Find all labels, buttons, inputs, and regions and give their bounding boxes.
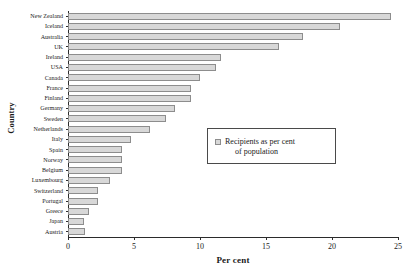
y-axis-tick [66, 159, 69, 160]
y-axis-tick-label: France [46, 85, 63, 91]
y-axis-tick-label: Ireland [46, 54, 63, 60]
legend-label-line1: Recipients as per cent [225, 137, 330, 147]
y-axis-tick-labels: New ZealandIcelandAustraliaUKIrelandUSAC… [0, 11, 66, 237]
x-axis-tick-label: 10 [185, 242, 215, 251]
y-axis-tick [66, 118, 69, 119]
y-axis-tick [66, 57, 69, 58]
bar [68, 64, 216, 71]
x-axis-tick-label: 0 [53, 242, 83, 251]
bar [68, 23, 340, 30]
x-axis-tick-label: 20 [317, 242, 347, 251]
y-axis-tick [66, 201, 69, 202]
bar [68, 115, 166, 122]
y-axis-tick [66, 88, 69, 89]
bar [68, 95, 191, 102]
legend-entry: Recipients as per cent of population [215, 137, 330, 157]
bar [68, 54, 221, 61]
y-axis-tick-label: Germany [40, 105, 63, 111]
bar-chart: Country New ZealandIcelandAustraliaUKIre… [0, 0, 415, 276]
y-axis-tick-label: UK [54, 44, 63, 50]
bar [68, 156, 122, 163]
y-axis-tick-label: Sweden [44, 116, 63, 122]
y-axis-tick [66, 211, 69, 212]
y-axis-tick-label: USA [51, 64, 63, 70]
legend-swatch-icon [215, 139, 221, 145]
y-axis-tick [66, 108, 69, 109]
y-axis-tick-label: Spain [49, 147, 63, 153]
bar [68, 74, 200, 81]
y-axis-tick [66, 77, 69, 78]
y-axis-tick-label: Italy [52, 136, 63, 142]
y-axis-tick-label: Greece [46, 208, 63, 214]
x-axis-tick [332, 237, 333, 240]
legend-label-line2: of population [225, 147, 330, 157]
y-axis-tick-label: Japan [49, 218, 63, 224]
y-axis-tick [66, 149, 69, 150]
y-axis-tick-label: Luxembourg [32, 177, 63, 183]
y-axis-tick [66, 221, 69, 222]
x-axis-line [68, 237, 398, 238]
bar [68, 228, 85, 235]
bar-series [68, 11, 398, 237]
legend: Recipients as per cent of population [207, 128, 336, 164]
y-axis-tick-label: Belgium [42, 167, 63, 173]
bar [68, 85, 191, 92]
bar [68, 33, 303, 40]
y-axis-tick-label: Canada [45, 75, 63, 81]
y-axis-tick [66, 129, 69, 130]
x-axis-tick-label: 5 [119, 242, 149, 251]
y-axis-tick [66, 139, 69, 140]
bar [68, 177, 110, 184]
x-axis-title: Per cent [68, 255, 398, 265]
bar [68, 167, 122, 174]
y-axis-tick [66, 16, 69, 17]
y-axis-tick [66, 67, 69, 68]
y-axis-tick [66, 180, 69, 181]
y-axis-tick [66, 98, 69, 99]
y-axis-tick-label: Australia [41, 34, 63, 40]
y-axis-tick-label: Netherlands [34, 126, 63, 132]
bar [68, 13, 391, 20]
x-axis-tick-label: 15 [251, 242, 281, 251]
y-axis-tick [66, 231, 69, 232]
bar [68, 136, 131, 143]
y-axis-tick [66, 190, 69, 191]
y-axis-tick-label: Switzerland [34, 188, 63, 194]
bar [68, 146, 122, 153]
plot-area: 0510152025 [68, 11, 398, 237]
x-axis-tick [200, 237, 201, 240]
bar [68, 105, 175, 112]
y-axis-tick [66, 26, 69, 27]
x-axis-tick-label: 25 [383, 242, 413, 251]
bar [68, 198, 98, 205]
y-axis-tick [66, 170, 69, 171]
x-axis-tick [68, 237, 69, 240]
bar [68, 218, 84, 225]
x-axis-tick [398, 237, 399, 240]
y-axis-tick-label: Finland [44, 95, 63, 101]
y-axis-tick [66, 46, 69, 47]
y-axis-tick-label: Norway [43, 157, 63, 163]
bar [68, 187, 98, 194]
y-axis-tick-label: New Zealand [30, 13, 63, 19]
x-axis-tick [134, 237, 135, 240]
y-axis-tick-label: Iceland [45, 23, 63, 29]
y-axis-tick [66, 36, 69, 37]
bar [68, 208, 89, 215]
y-axis-tick-label: Portugal [42, 198, 63, 204]
y-axis-tick-label: Austria [45, 229, 63, 235]
bar [68, 43, 279, 50]
bar [68, 126, 150, 133]
x-axis-tick [266, 237, 267, 240]
